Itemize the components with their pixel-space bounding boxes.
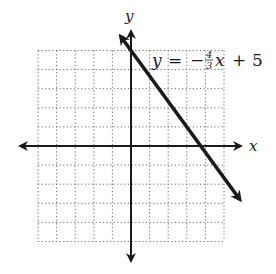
eq-minus: −: [190, 50, 204, 70]
eq-x: x: [215, 50, 225, 70]
eq-constant: 5: [252, 50, 263, 70]
graph-figure: x y y = − 4 3 x + 5: [0, 0, 276, 274]
eq-denominator: 3: [206, 60, 212, 71]
eq-y: y: [151, 50, 162, 70]
eq-equals: =: [168, 50, 182, 70]
eq-numerator: 4: [205, 49, 212, 60]
equation-label: y = − 4 3 x + 5: [151, 49, 263, 71]
y-axis-label: y: [124, 7, 134, 25]
x-axis-label: x: [249, 137, 258, 155]
eq-plus: +: [232, 50, 246, 70]
